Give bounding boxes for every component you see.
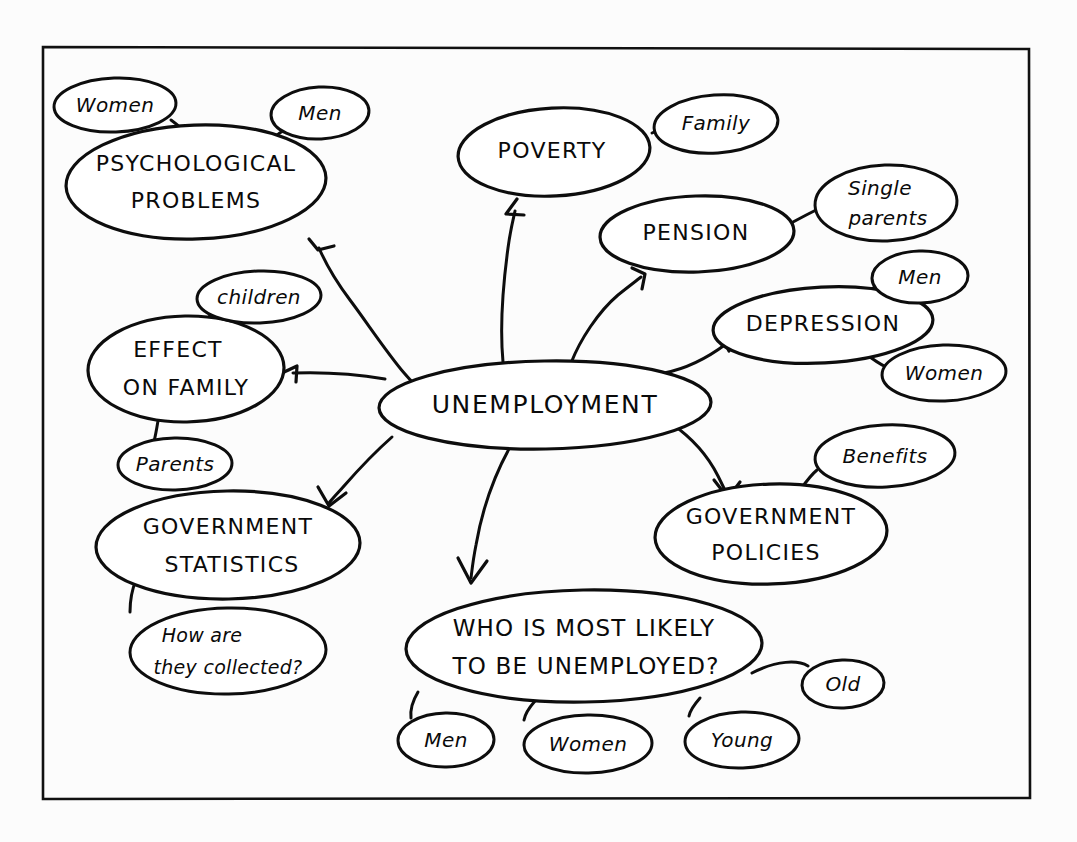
node-label-psychological-line2: PROBLEMS: [131, 188, 261, 213]
node-label-who-line2: TO BE UNEMPLOYED?: [451, 653, 719, 679]
node-label-poverty: POVERTY: [498, 138, 607, 163]
node-label-gov-stats-line2: STATISTICS: [164, 552, 299, 577]
node-label-parents: Parents: [136, 452, 215, 476]
node-label-dep-men: Men: [898, 265, 941, 289]
node-label-who-men: Men: [424, 728, 467, 752]
node-label-gov-stats-line1: GOVERNMENT: [143, 514, 313, 539]
node-who-most-likely-unemployed[interactable]: WHO IS MOST LIKELY TO BE UNEMPLOYED?: [405, 587, 763, 705]
node-label-how-line2: they collected?: [153, 656, 302, 678]
node-label-gov-pol-line2: POLICIES: [711, 540, 820, 565]
node-label-poverty-family: Family: [682, 111, 751, 135]
node-psy-men[interactable]: Men: [270, 84, 371, 141]
node-depression-men[interactable]: Men: [871, 249, 969, 304]
node-depression-women[interactable]: Women: [881, 343, 1007, 403]
node-label-who-line1: WHO IS MOST LIKELY: [453, 615, 716, 641]
node-psy-women[interactable]: Women: [53, 76, 177, 134]
node-label-psy-men: Men: [298, 101, 341, 125]
node-label-depression: DEPRESSION: [746, 311, 901, 336]
node-family-children[interactable]: children: [196, 269, 322, 325]
node-unemployment-root[interactable]: UNEMPLOYMENT: [378, 358, 711, 452]
node-label-who-women: Women: [549, 732, 627, 756]
node-label-dep-women: Women: [905, 361, 983, 385]
node-psychological-problems[interactable]: PSYCHOLOGICAL PROBLEMS: [64, 120, 328, 243]
node-label-psychological-line1: PSYCHOLOGICAL: [96, 151, 297, 176]
node-pension[interactable]: PENSION: [599, 193, 796, 276]
edge-who-men: [411, 692, 418, 718]
edge-unemployment-gov-statistics: [318, 437, 392, 506]
node-label-effect-line2: ON FAMILY: [123, 375, 249, 400]
node-who-young[interactable]: Young: [684, 710, 800, 770]
node-who-old[interactable]: Old: [801, 659, 885, 710]
node-who-women[interactable]: Women: [524, 714, 653, 774]
mind-map-page: PSYCHOLOGICAL PROBLEMS POVERTY PENSION D…: [0, 0, 1077, 842]
node-how-are-they-collected[interactable]: How are they collected?: [129, 606, 326, 695]
node-government-statistics[interactable]: GOVERNMENT STATISTICS: [95, 489, 361, 602]
node-effect-on-family[interactable]: EFFECT ON FAMILY: [87, 314, 285, 423]
node-label-single-line2: parents: [847, 206, 927, 230]
edge-unemployment-effect-on-family: [282, 366, 385, 382]
node-poverty[interactable]: POVERTY: [456, 103, 652, 201]
mind-map-canvas: PSYCHOLOGICAL PROBLEMS POVERTY PENSION D…: [0, 0, 1077, 842]
node-label-effect-line1: EFFECT: [133, 337, 223, 362]
node-label-pension: PENSION: [643, 220, 750, 245]
node-label-who-old: Old: [825, 672, 860, 696]
node-label-children: children: [217, 285, 301, 309]
edge-who-women: [524, 701, 535, 720]
node-label-benefits: Benefits: [842, 444, 927, 468]
node-label-gov-pol-line1: GOVERNMENT: [686, 504, 856, 529]
edge-unemployment-pension: [571, 268, 645, 363]
node-who-men[interactable]: Men: [398, 712, 495, 768]
node-label-single-line1: Single: [848, 176, 912, 200]
node-label-how-line1: How are: [162, 624, 243, 646]
edge-who-young: [689, 698, 700, 716]
edge-unemployment-poverty: [502, 199, 524, 362]
node-label-who-young: Young: [711, 728, 773, 752]
node-government-policies[interactable]: GOVERNMENT POLICIES: [653, 480, 888, 588]
node-policies-benefits[interactable]: Benefits: [813, 421, 956, 490]
edge-unemployment-who-unemployed: [458, 447, 510, 583]
node-label-unemployment: UNEMPLOYMENT: [432, 390, 659, 419]
node-label-psy-women: Women: [76, 93, 154, 117]
node-pension-single-parents[interactable]: Single parents: [814, 163, 959, 244]
node-family-parents[interactable]: Parents: [118, 437, 233, 491]
node-poverty-family[interactable]: Family: [652, 91, 780, 158]
edge-who-old: [752, 662, 808, 673]
